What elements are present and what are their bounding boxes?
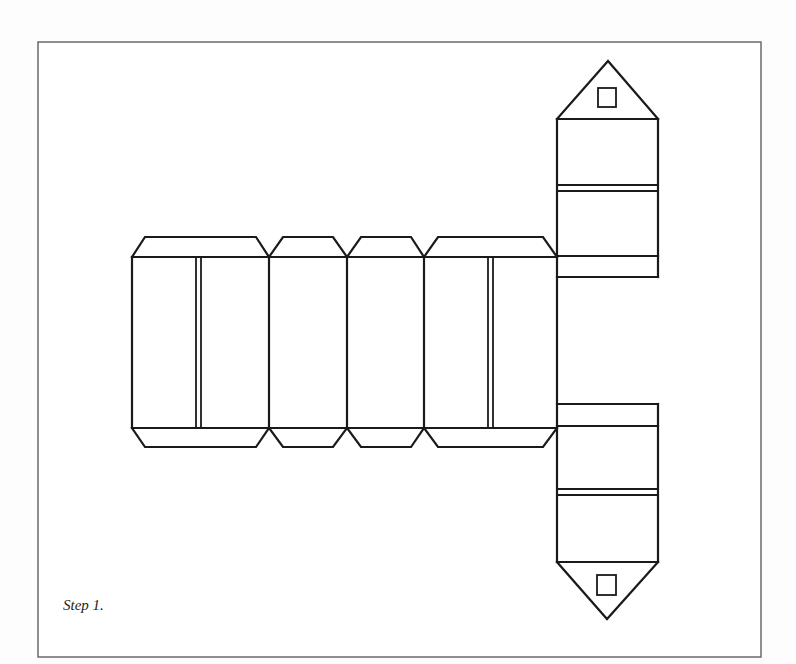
figure-frame	[38, 42, 761, 657]
house-net-diagram	[0, 0, 796, 664]
step-caption: Step 1.	[63, 597, 104, 614]
